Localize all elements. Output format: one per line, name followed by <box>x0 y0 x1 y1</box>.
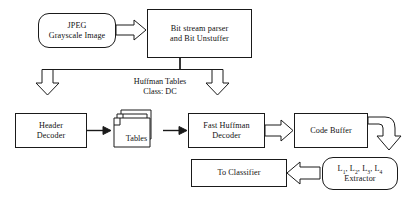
extractor-line1: L1, L2, L3, L4 <box>338 164 383 173</box>
node-jpeg-input[interactable]: JPEG Grayscale Image <box>38 13 116 48</box>
diagram-canvas: JPEG Grayscale Image Bit stream parser a… <box>0 0 412 197</box>
node-fast-huffman-decoder[interactable]: Fast Huffman Decoder <box>188 113 265 148</box>
tables-to-decoder-head <box>179 127 187 135</box>
huffman-tables-label-line2: Class: DC <box>104 87 216 97</box>
node-header-decoder[interactable]: Header Decoder <box>15 113 87 148</box>
extractor-to-classifier-arrow <box>287 162 320 184</box>
decoder-to-buffer-arrow <box>265 120 293 141</box>
header-decoder-line2: Decoder <box>37 131 65 140</box>
parser-bus-down-left-arrow <box>36 70 59 96</box>
code-buffer-label: Code Buffer <box>310 126 352 135</box>
node-bit-stream-parser[interactable]: Bit stream parser and Bit Unstuffer <box>147 9 252 58</box>
tables-label: Tables <box>110 134 163 143</box>
node-code-buffer[interactable]: Code Buffer <box>294 113 368 148</box>
extractor-line2: Extractor <box>344 174 375 183</box>
bit-stream-parser-line2: and Bit Unstuffer <box>170 34 229 43</box>
buffer-to-extractor-curved-arrow <box>368 117 401 150</box>
document-stack-icon <box>110 108 163 150</box>
huffman-tables-label: Huffman Tables Class: DC <box>104 77 216 97</box>
to-classifier-label: To Classifier <box>217 168 260 177</box>
node-to-classifier[interactable]: To Classifier <box>191 159 287 187</box>
fast-huffman-decoder-line1: Fast Huffman <box>203 121 249 130</box>
node-extractor[interactable]: L1, L2, L3, L4 Extractor <box>322 157 398 190</box>
jpeg-to-parser-arrow <box>116 20 146 40</box>
jpeg-input-line1: JPEG <box>67 21 86 30</box>
huffman-tables-label-line1: Huffman Tables <box>104 77 216 87</box>
header-decoder-line1: Header <box>39 121 63 130</box>
jpeg-input-line2: Grayscale Image <box>49 31 106 40</box>
fast-huffman-decoder-line2: Decoder <box>212 131 240 140</box>
node-tables-document-stack[interactable]: Tables <box>110 108 163 150</box>
bit-stream-parser-line1: Bit stream parser <box>171 24 229 33</box>
